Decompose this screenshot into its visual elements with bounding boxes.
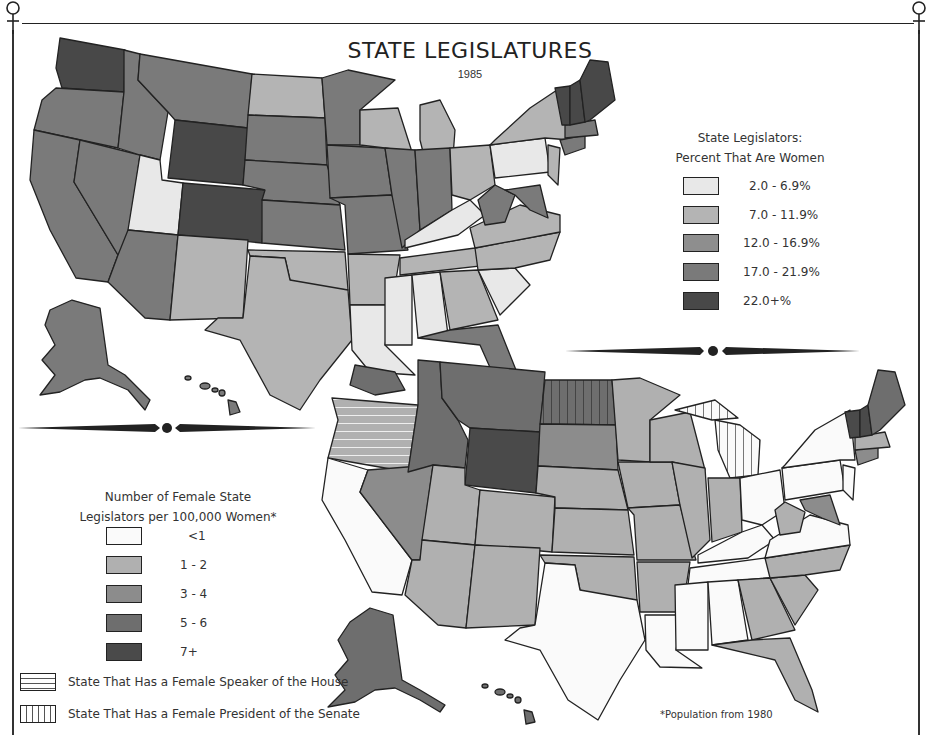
state-fl	[712, 638, 818, 712]
state-ia	[618, 462, 680, 508]
state-mi	[715, 420, 760, 478]
state-nd	[540, 380, 616, 425]
legend-label: 1 - 2	[180, 558, 207, 572]
state-nm	[466, 545, 540, 628]
bottom-legend-item: 1 - 2	[106, 556, 207, 574]
state-nd	[248, 74, 325, 118]
legend-swatch	[106, 527, 142, 545]
top-legend-title-line1: State Legislators:	[660, 128, 840, 148]
state-wi	[360, 108, 412, 152]
state-ia	[327, 145, 392, 198]
state-co	[178, 183, 265, 243]
legend-label: 2.0 - 6.9%	[749, 179, 811, 193]
legend-label: 22.0+%	[743, 294, 791, 308]
state-sd	[245, 115, 327, 165]
legend-swatch	[683, 263, 719, 281]
state-or	[328, 398, 418, 472]
pattern-legend-senate: State That Has a Female President of the…	[20, 705, 360, 723]
bottom-legend-title: Number of Female State Legislators per 1…	[78, 487, 278, 527]
state-hi	[185, 376, 240, 415]
bottom-legend-item: <1	[106, 527, 206, 545]
pattern-legend-label: State That Has a Female President of the…	[68, 707, 360, 721]
top-legend-title: State Legislators: Percent That Are Wome…	[660, 128, 840, 168]
legend-label: <1	[188, 529, 206, 543]
legend-swatch	[683, 234, 719, 252]
state-ks	[262, 200, 345, 250]
state-ak	[328, 608, 445, 712]
legend-swatch	[106, 556, 142, 574]
legend-swatch	[683, 292, 719, 310]
legend-swatch	[106, 614, 142, 632]
state-wa	[56, 38, 125, 92]
state-nj	[843, 465, 855, 500]
bottom-legend-item: 3 - 4	[106, 585, 207, 603]
bottom-legend-title-line2: Legislators per 100,000 Women*	[78, 507, 278, 527]
top-legend-title-line2: Percent That Are Women	[660, 148, 840, 168]
top-legend-item: 12.0 - 16.9%	[683, 234, 820, 252]
ornamental-divider-bottom	[18, 423, 316, 433]
pattern-legend-label: State That Has a Female Speaker of the H…	[68, 675, 348, 689]
map-title: STATE LEGISLATURES	[340, 38, 600, 63]
vertical-stripes-swatch	[20, 705, 56, 723]
state-hi	[482, 684, 535, 724]
state-ms	[675, 582, 708, 650]
map-year: 1985	[440, 68, 500, 80]
footnote: *Population from 1980	[660, 709, 773, 720]
legend-label: 12.0 - 16.9%	[743, 236, 820, 250]
legend-label: 5 - 6	[180, 616, 207, 630]
state-wi	[650, 412, 705, 470]
top-legend-item: 2.0 - 6.9%	[683, 177, 811, 195]
state-ak	[40, 300, 150, 410]
horizontal-stripes-swatch	[20, 673, 56, 691]
state-wy	[465, 428, 540, 493]
state-sd	[538, 424, 618, 470]
pattern-legend-speaker: State That Has a Female Speaker of the H…	[20, 673, 348, 691]
bottom-legend-title-line1: Number of Female State	[78, 487, 278, 507]
state-ny	[782, 410, 855, 468]
legend-swatch	[683, 177, 719, 195]
top-legend-item: 7.0 - 11.9%	[683, 206, 818, 224]
state-wv	[775, 502, 805, 535]
legend-swatch	[683, 206, 719, 224]
legend-label: 7.0 - 11.9%	[749, 208, 818, 222]
top-legend-item: 17.0 - 21.9%	[683, 263, 820, 281]
state-me	[868, 370, 905, 435]
top-map	[30, 38, 615, 415]
top-legend-item: 22.0+%	[683, 292, 791, 310]
bottom-map	[322, 360, 905, 724]
state-wy	[168, 120, 248, 185]
state-nj	[548, 145, 560, 185]
state-me	[580, 60, 615, 122]
legend-label: 17.0 - 21.9%	[743, 265, 820, 279]
legend-swatch	[106, 585, 142, 603]
bottom-legend-item: 5 - 6	[106, 614, 207, 632]
legend-label: 3 - 4	[180, 587, 207, 601]
state-ms	[385, 275, 412, 345]
state-ks	[552, 508, 634, 555]
state-nm	[170, 235, 248, 320]
bottom-legend-item: 7+	[106, 643, 198, 661]
legend-swatch	[106, 643, 142, 661]
ornamental-divider-top	[565, 346, 860, 356]
state-in	[708, 478, 742, 542]
state-co	[475, 490, 555, 552]
legend-label: 7+	[180, 645, 198, 659]
